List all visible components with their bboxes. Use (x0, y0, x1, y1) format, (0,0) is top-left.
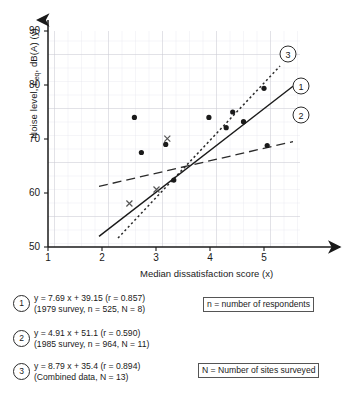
legend-detail-1: (1979 survey, n = 525, N = 8) (34, 304, 145, 315)
x-tick-label-3: 3 (146, 252, 166, 263)
line-callout-1: 1 (298, 82, 303, 92)
x-tick-label-4: 4 (200, 252, 220, 263)
legend-marker-2: 2 (13, 330, 30, 347)
x-tick-label-2: 2 (92, 252, 112, 263)
note-sites: N = Number of sites surveyed (198, 363, 319, 378)
noise-dissatisfaction-figure: 3 1 2 90 80 70 60 50 1 2 3 4 5 Noise lev… (0, 0, 362, 396)
legend-detail-2: (1985 survey, n = 964, N = 11) (34, 339, 149, 350)
line-callout-3: 3 (285, 50, 290, 60)
line-callout-2: 2 (298, 111, 303, 121)
legend-entry-1: y = 7.69 x + 39.15 (r = 0.857) (1979 sur… (34, 293, 145, 316)
y-tick-label-50: 50 (18, 243, 40, 251)
legend-equation-1: y = 7.69 x + 39.15 (r = 0.857) (34, 293, 145, 304)
note-respondents: n = number of respondents (203, 297, 314, 312)
y-axis-title: Noise level, Leq, dB(A) (y) (28, 0, 39, 179)
legend-equation-3: y = 8.79 x + 35.4 (r = 0.894) (34, 361, 140, 372)
legend-detail-3: (Combined data, N = 13) (34, 372, 140, 383)
plot-gridlines (48, 31, 300, 247)
y-axis-title-subscript: eq (33, 73, 40, 81)
x-tick-label-1: 1 (38, 252, 58, 263)
y-axis-title-suffix: , dB(A) (y) (28, 28, 39, 72)
scatter-plot-svg: 3 1 2 (0, 0, 362, 290)
figure-legend: 1 y = 7.69 x + 39.15 (r = 0.857) (1979 s… (0, 288, 362, 396)
legend-entry-3: y = 8.79 x + 35.4 (r = 0.894) (Combined … (34, 361, 140, 384)
x-axis-title: Median dissatisfaction score (x) (140, 268, 273, 279)
legend-marker-3: 3 (13, 363, 30, 380)
y-tick-label-60: 60 (18, 189, 40, 197)
x-tick-label-5: 5 (254, 252, 274, 263)
y-axis-title-prefix: Noise level, (28, 86, 39, 139)
legend-marker-1: 1 (13, 295, 30, 312)
legend-equation-2: y = 4.91 x + 51.1 (r = 0.590) (34, 328, 149, 339)
legend-entry-2: y = 4.91 x + 51.1 (r = 0.590) (1985 surv… (34, 328, 149, 351)
y-axis-title-symbol: L (28, 80, 39, 85)
plot-area-wrapper: 3 1 2 90 80 70 60 50 1 2 3 4 5 Noise lev… (0, 0, 362, 290)
